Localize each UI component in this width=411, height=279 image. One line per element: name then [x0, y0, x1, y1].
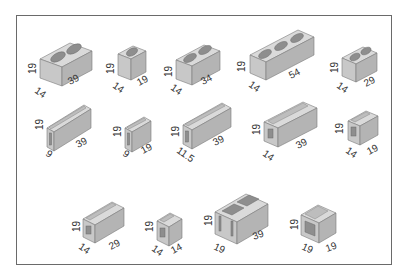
- dim-b10-depth: 14: [344, 145, 360, 161]
- dim-b3-height: 19: [163, 65, 174, 77]
- dim-b13-depth: 19: [212, 241, 227, 256]
- dim-b12-height: 19: [144, 220, 155, 232]
- dim-b11-depth: 14: [77, 241, 93, 257]
- dim-b1-depth: 14: [33, 85, 49, 101]
- block-b14: [301, 205, 336, 243]
- dim-b13-length: 39: [251, 228, 266, 242]
- dim-b5-depth: 14: [335, 80, 351, 96]
- block-b4: [250, 30, 314, 80]
- dim-b4-height: 19: [236, 60, 247, 72]
- dim-b1-height: 19: [27, 62, 38, 74]
- dim-b9-depth: 14: [261, 148, 277, 164]
- dim-b14-depth: 19: [300, 241, 315, 256]
- dim-b6-depth: 9: [44, 148, 55, 160]
- dim-b11-height: 19: [71, 220, 82, 232]
- dim-b14-length: 19: [324, 240, 339, 254]
- dim-b8-height: 19: [170, 125, 181, 137]
- dim-b5-height: 19: [329, 61, 340, 73]
- block-b11: [83, 202, 124, 243]
- dim-b14-height: 19: [289, 218, 300, 230]
- dim-b9-height: 19: [251, 123, 262, 135]
- dim-b13-height: 19: [203, 214, 214, 226]
- dim-b12-depth: 14: [150, 243, 166, 259]
- block-b9: [264, 102, 317, 147]
- dim-b6-height: 19: [34, 118, 45, 130]
- dim-b11-length: 29: [107, 237, 122, 252]
- block-b10: [348, 111, 378, 145]
- dim-b7-height: 19: [112, 125, 123, 137]
- dim-b2-height: 19: [105, 62, 116, 74]
- dim-b2-depth: 14: [111, 80, 127, 96]
- block-diagram: .top{fill:#dadada;stroke:#7a7a7a;stroke-…: [0, 0, 411, 279]
- block-b3: [176, 44, 220, 85]
- dim-b10-height: 19: [334, 122, 345, 134]
- dim-b7-depth: 9: [121, 148, 132, 160]
- dim-b10-length: 19: [365, 142, 380, 157]
- dim-b4-depth: 14: [247, 79, 263, 95]
- dim-b3-depth: 14: [169, 82, 185, 98]
